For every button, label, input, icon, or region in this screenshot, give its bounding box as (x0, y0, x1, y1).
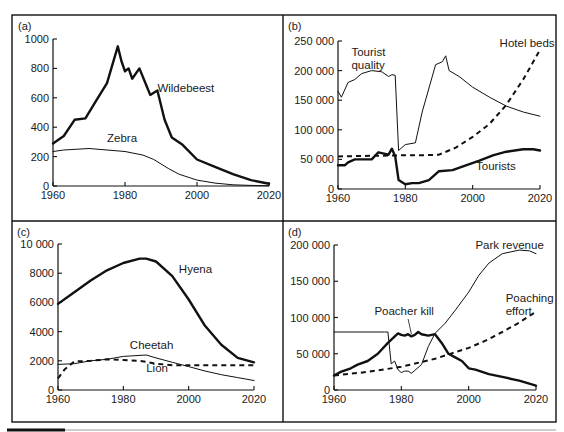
panel-label: (a) (18, 20, 31, 32)
y-tick-label: 4000 (30, 326, 54, 338)
series-zebra: Zebra (53, 132, 269, 186)
y-tick-label: 200 (31, 151, 49, 163)
series-line (334, 312, 536, 376)
y-tick-label: 150 000 (294, 94, 334, 106)
series-label: Lion (146, 362, 168, 374)
series-poacher-kill: Poacher kill (334, 305, 536, 385)
x-tick-label: 1980 (111, 393, 135, 405)
x-tick-label: 1980 (393, 192, 417, 204)
series-poaching-effort: Poachingeffort (334, 292, 554, 376)
x-tick-label: 2020 (242, 393, 266, 405)
axes: 050 000100 000150 000200 000196019802000… (290, 239, 548, 405)
panel-a: (a)020040060080010001960198020002020Wild… (18, 20, 281, 201)
y-tick-label: 800 (31, 62, 49, 74)
y-tick-label: 200 000 (294, 65, 334, 77)
axes: 050 000100 000150 000200 000250 00019601… (294, 35, 552, 204)
x-tick-label: 1960 (41, 189, 65, 201)
y-tick-label: 8000 (30, 267, 54, 279)
axes: 0200040006000800010 0001960198020002020 (20, 238, 266, 405)
series-label: Poacher kill (374, 305, 433, 317)
y-tick-label: 100 000 (290, 312, 330, 324)
series-label: Poaching (506, 292, 554, 304)
x-tick-label: 2020 (528, 192, 552, 204)
y-tick-label: 50 000 (300, 153, 334, 165)
series-line (53, 149, 269, 186)
panel-label: (c) (17, 226, 30, 238)
series-label: Hotel beds (500, 37, 555, 49)
panel-label: (b) (288, 20, 301, 32)
x-tick-label: 2000 (460, 192, 484, 204)
series-label: Tourists (476, 160, 516, 172)
x-tick-label: 1980 (113, 189, 137, 201)
panel-c: (c)0200040006000800010 00019601980200020… (17, 226, 266, 405)
series-label: Cheetah (130, 339, 173, 351)
series-wildebeest: Wildebeest (53, 46, 269, 184)
y-tick-label: 50 000 (296, 348, 330, 360)
panel-label: (d) (288, 226, 301, 238)
figure-container: (a)020040060080010001960198020002020Wild… (0, 0, 564, 432)
black-bar (7, 429, 65, 432)
series-line (53, 46, 269, 184)
series-label: effort (506, 305, 533, 317)
y-tick-label: 200 000 (290, 239, 330, 251)
x-tick-label: 1960 (322, 393, 346, 405)
y-tick-label: 250 000 (294, 35, 334, 47)
series-label: Hyena (179, 263, 213, 275)
x-tick-label: 2000 (176, 393, 200, 405)
four-panel-chart: (a)020040060080010001960198020002020Wild… (0, 0, 564, 432)
y-tick-label: 100 000 (294, 124, 334, 136)
axes: 020040060080010001960198020002020 (25, 33, 282, 201)
x-tick-label: 2000 (185, 189, 209, 201)
x-tick-label: 1960 (46, 393, 70, 405)
series-label: Zebra (107, 132, 138, 144)
footer-rule (7, 429, 556, 432)
series-label: quality (351, 59, 384, 71)
y-tick-label: 2000 (30, 355, 54, 367)
x-tick-label: 2000 (456, 393, 480, 405)
y-tick-label: 6000 (30, 296, 54, 308)
panel-d: (d)050 000100 000150 000200 000196019802… (288, 226, 554, 405)
series-label: Wildebeest (157, 82, 215, 94)
y-tick-label: 1000 (25, 33, 49, 45)
label-leader-line (408, 319, 411, 334)
y-tick-label: 600 (31, 92, 49, 104)
x-tick-label: 1980 (389, 393, 413, 405)
x-tick-label: 1960 (326, 192, 350, 204)
y-tick-label: 10 000 (20, 238, 54, 250)
x-tick-label: 2020 (257, 189, 281, 201)
y-tick-label: 150 000 (290, 275, 330, 287)
y-tick-label: 400 (31, 121, 49, 133)
x-tick-label: 2020 (524, 393, 548, 405)
series-label: Tourist (351, 46, 386, 58)
panel-b: (b)050 000100 000150 000200 000250 00019… (288, 20, 555, 204)
series-label: Park revenue (475, 239, 543, 251)
